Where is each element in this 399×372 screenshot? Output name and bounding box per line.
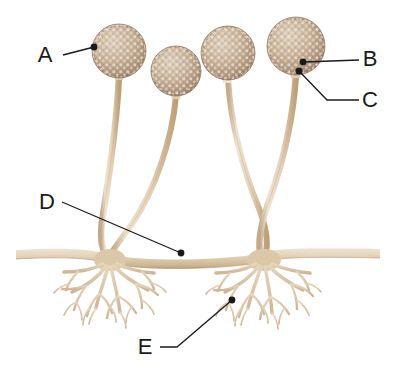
label-A-text: A: [38, 42, 53, 67]
label-E-text: E: [138, 334, 153, 359]
rhizopus-diagram: A B C D E: [0, 0, 399, 372]
sporangium-1: [92, 24, 146, 78]
label-A-leader: [63, 47, 94, 55]
rhizoid-cluster-right: [206, 264, 321, 329]
stolon: [16, 248, 380, 268]
sporangiophore-group: [101, 75, 296, 252]
label-C-text: C: [362, 87, 378, 112]
label-E-group[interactable]: E: [138, 297, 236, 359]
sporangium-3: [201, 26, 255, 80]
sporangia-group: [92, 17, 325, 96]
diagram-canvas: A B C D E: [0, 0, 399, 372]
label-D-dot: [178, 250, 185, 257]
label-D-group[interactable]: D: [39, 189, 184, 256]
label-D-text: D: [39, 189, 55, 214]
label-C-leader: [299, 71, 359, 100]
sporangium-2: [151, 46, 201, 96]
label-C-group[interactable]: C: [295, 67, 378, 112]
rhizoid-cluster-left: [54, 264, 166, 328]
label-A-dot: [91, 44, 98, 51]
sporangium-4: [267, 17, 325, 75]
label-A-group[interactable]: A: [38, 42, 98, 67]
label-C-dot: [295, 67, 302, 74]
label-E-dot: [229, 297, 236, 304]
label-B-dot: [300, 59, 307, 66]
sporangiophore-2: [112, 96, 176, 252]
label-B-text: B: [363, 46, 378, 71]
sporangiophore-4: [259, 75, 296, 252]
sporangiophore-2-edge: [112, 96, 176, 252]
label-D-leader: [62, 202, 181, 253]
